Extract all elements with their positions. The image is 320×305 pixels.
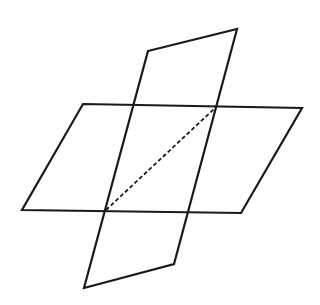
horizontal-plane bbox=[22, 104, 302, 213]
diagram-canvas bbox=[0, 0, 320, 305]
intersection-line bbox=[106, 109, 214, 210]
